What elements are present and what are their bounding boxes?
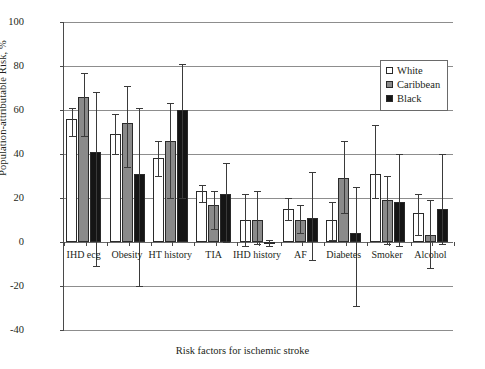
error-cap-lower xyxy=(81,136,88,137)
error-cap-upper xyxy=(112,114,119,115)
x-category-label-diabetes: Diabetes xyxy=(326,250,361,260)
error-bar-black-alcohol xyxy=(442,154,443,244)
chart-figure: Population-attributable Risk, % 10080604… xyxy=(0,0,485,369)
error-cap-upper xyxy=(266,240,273,241)
y-tick-mark-20 xyxy=(60,198,64,199)
error-bar-caribbean-diabetes xyxy=(344,141,345,214)
error-cap-lower xyxy=(179,198,186,199)
error-cap-upper xyxy=(415,194,422,195)
x-tick-mark xyxy=(86,242,87,246)
error-cap-lower xyxy=(167,198,174,199)
error-cap-upper xyxy=(297,205,304,206)
error-bar-caribbean-ihd-ecg xyxy=(84,73,85,137)
error-cap-lower xyxy=(353,306,360,307)
gridline-100 xyxy=(64,22,453,23)
error-bar-black-af xyxy=(312,172,313,260)
y-tick-label--40: -40 xyxy=(0,325,24,336)
error-cap-lower xyxy=(93,266,100,267)
error-cap-upper xyxy=(439,154,446,155)
y-tick-mark-40 xyxy=(60,154,64,155)
error-cap-lower xyxy=(341,213,348,214)
error-cap-upper xyxy=(93,92,100,93)
legend-swatch-white xyxy=(386,67,393,74)
error-cap-lower xyxy=(69,136,76,137)
x-tick-mark xyxy=(302,242,303,246)
error-bar-black-ht-history xyxy=(182,64,183,198)
legend-item-black: Black xyxy=(386,92,440,106)
x-axis-title: Risk factors for ischemic stroke xyxy=(0,345,485,356)
x-tick-mark xyxy=(454,242,455,246)
x-category-label-smoker: Smoker xyxy=(371,250,402,260)
x-category-label-af: AF xyxy=(294,250,307,260)
error-bar-caribbean-obesity xyxy=(127,86,128,167)
error-bar-white-ht-history xyxy=(158,141,159,176)
x-tick-mark xyxy=(216,242,217,246)
error-cap-lower xyxy=(223,242,230,243)
x-tick-mark xyxy=(281,242,282,246)
error-cap-upper xyxy=(136,108,143,109)
error-cap-lower xyxy=(199,202,206,203)
y-tick-label-100: 100 xyxy=(0,17,24,28)
x-category-label-obesity: Obesity xyxy=(111,250,142,260)
error-cap-upper xyxy=(155,141,162,142)
error-cap-upper xyxy=(81,73,88,74)
legend-label-white: White xyxy=(397,64,423,78)
x-category-label-ht-history: HT history xyxy=(149,250,192,260)
x-category-label-alcohol: Alcohol xyxy=(414,250,446,260)
y-tick-label-60: 60 xyxy=(0,105,24,116)
error-cap-upper xyxy=(341,141,348,142)
error-cap-lower xyxy=(439,244,446,245)
legend-label-black: Black xyxy=(397,92,422,106)
x-tick-mark xyxy=(432,242,433,246)
error-cap-lower xyxy=(124,167,131,168)
error-cap-lower xyxy=(396,246,403,247)
error-bar-white-obesity xyxy=(115,114,116,154)
error-cap-lower xyxy=(242,246,249,247)
error-bar-black-smoker xyxy=(399,154,400,246)
error-bar-white-tia xyxy=(202,185,203,203)
error-cap-upper xyxy=(199,185,206,186)
x-tick-mark xyxy=(237,242,238,246)
y-tick-label--20: -20 xyxy=(0,281,24,292)
y-tick-mark-60 xyxy=(60,110,64,111)
y-tick-mark-80 xyxy=(60,66,64,67)
error-cap-upper xyxy=(372,125,379,126)
legend-swatch-caribbean xyxy=(386,81,393,88)
x-category-label-ihd-history: IHD history xyxy=(233,250,281,260)
error-cap-lower xyxy=(427,268,434,269)
x-tick-mark xyxy=(129,242,130,246)
legend-label-caribbean: Caribbean xyxy=(397,78,440,92)
error-cap-lower xyxy=(112,154,119,155)
y-tick-label-40: 40 xyxy=(0,149,24,160)
legend-swatch-black xyxy=(386,95,393,102)
legend-item-caribbean: Caribbean xyxy=(386,78,440,92)
error-cap-upper xyxy=(124,86,131,87)
error-cap-lower xyxy=(297,233,304,234)
x-tick-mark xyxy=(64,242,65,246)
error-cap-lower xyxy=(372,198,379,199)
x-tick-mark xyxy=(367,242,368,246)
error-bar-white-af xyxy=(288,198,289,220)
error-cap-upper xyxy=(223,163,230,164)
error-cap-lower xyxy=(266,246,273,247)
x-tick-mark xyxy=(346,242,347,246)
error-cap-upper xyxy=(396,154,403,155)
x-tick-mark xyxy=(194,242,195,246)
x-tick-mark xyxy=(107,242,108,246)
error-bar-white-ihd-history xyxy=(245,194,246,247)
error-bar-white-diabetes xyxy=(332,202,333,239)
x-tick-mark xyxy=(411,242,412,246)
gridline--40 xyxy=(64,330,453,331)
error-bar-black-diabetes xyxy=(356,187,357,306)
error-cap-lower xyxy=(309,260,316,261)
error-cap-upper xyxy=(211,191,218,192)
error-bar-caribbean-smoker xyxy=(387,176,388,244)
x-tick-mark xyxy=(389,242,390,246)
x-tick-mark xyxy=(259,242,260,246)
x-tick-mark xyxy=(151,242,152,246)
y-tick-label-20: 20 xyxy=(0,193,24,204)
y-tick-mark--40 xyxy=(60,330,64,331)
y-tick-mark--20 xyxy=(60,286,64,287)
error-cap-lower xyxy=(155,176,162,177)
error-cap-upper xyxy=(384,176,391,177)
